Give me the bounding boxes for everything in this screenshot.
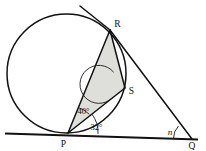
geometry-figure: P Q R S 40° 32° n — [0, 0, 206, 150]
vertex-label-Q: Q — [189, 141, 196, 151]
vertex-label-R: R — [114, 19, 121, 29]
geometry-diagram: P Q R S 40° 32° n — [0, 0, 206, 150]
tangent-line-at-R — [80, 6, 110, 30]
vertex-label-S: S — [129, 86, 134, 96]
angle-label-40: 40° — [78, 106, 91, 116]
vertex-label-P: P — [61, 139, 66, 149]
angle-arc-at-Q — [174, 126, 179, 138]
angle-label-32: 32° — [91, 122, 104, 132]
shaded-triangle-PRS — [68, 30, 125, 133]
angle-label-n: n — [168, 127, 173, 137]
